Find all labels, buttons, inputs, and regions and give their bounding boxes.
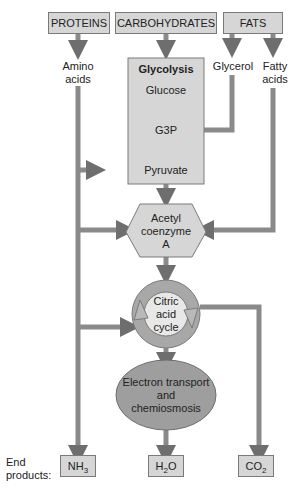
g3p-label: G3P bbox=[128, 124, 204, 137]
acetyl-coa-label: AcetylcoenzymeA bbox=[130, 212, 202, 251]
citric-cycle-label: Citricacidcycle bbox=[140, 295, 192, 334]
amino-acids-label: Aminoacids bbox=[50, 60, 106, 86]
glycolysis-title: Glycolysis bbox=[128, 63, 204, 76]
proteins-box: PROTEINS bbox=[48, 12, 110, 34]
nh3-box: NH3 bbox=[60, 455, 96, 477]
h2o-box: H2O bbox=[148, 455, 184, 477]
fats-box: FATS bbox=[223, 12, 283, 34]
fats-label: FATS bbox=[240, 17, 267, 29]
glycerol-label: Glycerol bbox=[208, 60, 258, 73]
electron-transport-label: Electron transportandchemiosmosis bbox=[116, 376, 216, 415]
end-products-label: Endproducts: bbox=[6, 456, 56, 482]
proteins-label: PROTEINS bbox=[51, 17, 107, 29]
co2-box: CO2 bbox=[238, 455, 274, 477]
carbohydrates-box: CARBOHYDRATES bbox=[115, 12, 217, 34]
pyruvate-label: Pyruvate bbox=[128, 164, 204, 177]
glucose-label: Glucose bbox=[128, 84, 204, 97]
fatty-acids-label: Fattyacids bbox=[255, 60, 295, 86]
carbohydrates-label: CARBOHYDRATES bbox=[117, 17, 215, 29]
